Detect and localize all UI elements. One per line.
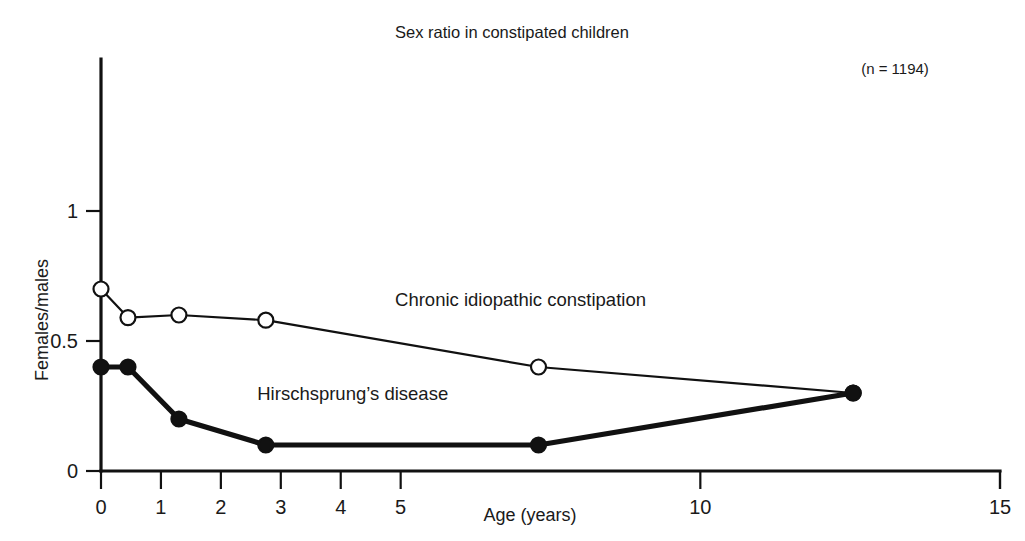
x-tick-label-4: 4: [335, 496, 346, 518]
y-tick-label-0: 0: [67, 460, 78, 482]
x-tick-label-7: 15: [989, 496, 1011, 518]
x-tick-label-6: 10: [689, 496, 711, 518]
y-tick-label-2: 1: [67, 200, 78, 222]
series-label-0: Chronic idiopathic constipation: [395, 289, 646, 310]
x-tick-label-2: 2: [215, 496, 226, 518]
x-tick-label-5: 5: [395, 496, 406, 518]
data-point-s0-3: [258, 313, 273, 328]
data-point-s1-5: [846, 386, 861, 401]
series-inline-labels: Chronic idiopathic constipationHirschspr…: [257, 289, 646, 404]
x-tick-label-3: 3: [275, 496, 286, 518]
data-point-s1-3: [258, 438, 273, 453]
x-tick-label-1: 1: [155, 496, 166, 518]
sex-ratio-line-chart: Sex ratio in constipated children (n = 1…: [0, 0, 1025, 541]
series-label-1: Hirschsprung’s disease: [257, 383, 448, 404]
chart-figure: Sex ratio in constipated children (n = 1…: [0, 0, 1025, 541]
axes: [101, 59, 1000, 489]
x-tick-label-0: 0: [95, 496, 106, 518]
data-point-s1-4: [531, 438, 546, 453]
data-point-s0-1: [120, 310, 135, 325]
sample-size-annotation: (n = 1194): [861, 60, 929, 77]
data-point-s1-2: [171, 412, 186, 427]
data-point-s0-4: [531, 360, 546, 375]
data-point-s0-0: [94, 282, 109, 297]
x-axis-title: Age (years): [483, 505, 576, 525]
y-axis-title: Females/males: [32, 259, 52, 381]
data-point-s0-2: [171, 308, 186, 323]
chart-title: Sex ratio in constipated children: [395, 23, 629, 41]
data-point-s1-1: [120, 360, 135, 375]
y-axis-ticks: 00.51: [50, 200, 101, 482]
series-line-1: [101, 367, 853, 445]
y-tick-label-1: 0.5: [50, 330, 78, 352]
data-point-s1-0: [94, 360, 109, 375]
